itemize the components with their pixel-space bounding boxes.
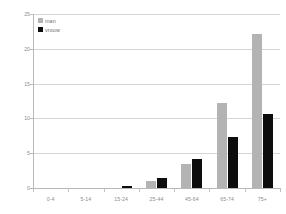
x-tick-mark xyxy=(280,189,281,192)
bar-man-45-64 xyxy=(181,164,191,188)
y-tick-label: 20 xyxy=(0,46,30,52)
bar-vrouw-75+ xyxy=(263,114,273,188)
legend-item-man: man xyxy=(38,17,60,24)
plot-area xyxy=(33,14,280,188)
x-tick-label-0-4: 0-4 xyxy=(33,196,68,202)
bar-chart: 0510152025 0-45-1415-2425-4445-6465-7475… xyxy=(0,0,286,214)
legend-swatch-man xyxy=(38,18,43,23)
bar-man-75+ xyxy=(252,34,262,188)
x-tick-label-15-24: 15-24 xyxy=(104,196,139,202)
x-tick-mark xyxy=(209,189,210,192)
bar-man-65-74 xyxy=(217,103,227,188)
y-tick-label: 0 xyxy=(0,185,30,191)
x-tick-mark xyxy=(33,189,34,192)
y-tick-label: 25 xyxy=(0,11,30,17)
x-tick-mark xyxy=(68,189,69,192)
legend-label-vrouw: vrouw xyxy=(45,27,60,33)
bar-vrouw-25-44 xyxy=(157,178,167,188)
legend-label-man: man xyxy=(45,18,56,24)
x-tick-label-65-74: 65-74 xyxy=(209,196,244,202)
x-tick-label-75+: 75+ xyxy=(245,196,280,202)
bar-man-25-44 xyxy=(146,181,156,188)
x-tick-label-25-44: 25-44 xyxy=(139,196,174,202)
legend-swatch-vrouw xyxy=(38,27,43,32)
bar-vrouw-15-24 xyxy=(122,186,132,188)
bar-vrouw-45-64 xyxy=(192,159,202,188)
x-tick-label-45-64: 45-64 xyxy=(174,196,209,202)
x-tick-label-5-14: 5-14 xyxy=(68,196,103,202)
y-tick-label: 5 xyxy=(0,150,30,156)
x-tick-mark xyxy=(139,189,140,192)
x-tick-mark xyxy=(104,189,105,192)
y-tick-label: 10 xyxy=(0,115,30,121)
legend-item-vrouw: vrouw xyxy=(38,26,60,33)
y-tick-label: 15 xyxy=(0,81,30,87)
bar-vrouw-65-74 xyxy=(228,137,238,189)
chart-legend: manvrouw xyxy=(38,17,60,33)
x-tick-mark xyxy=(174,189,175,192)
x-tick-mark xyxy=(245,189,246,192)
